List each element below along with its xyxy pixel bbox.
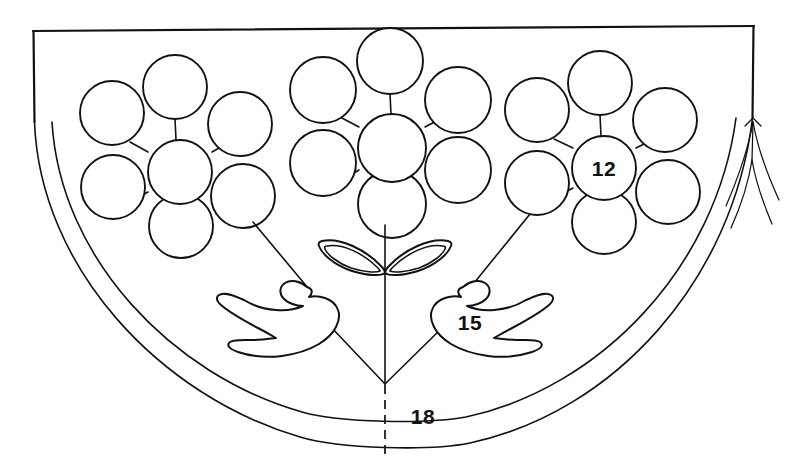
rosette-circle xyxy=(81,155,145,219)
leader-line-right-wing xyxy=(385,327,443,384)
rosette-circle xyxy=(208,92,272,156)
rosette-circle xyxy=(505,78,569,142)
middle-rosette xyxy=(290,28,491,238)
right-rosette: 12 xyxy=(505,51,700,254)
rosette-circle xyxy=(568,51,632,115)
left-rosette xyxy=(80,55,275,258)
right-wing-shape xyxy=(431,281,553,357)
figure-drawing: .ln { fill:none; stroke:#111111; stroke-… xyxy=(0,0,804,468)
rosette-circle xyxy=(290,130,356,196)
rosette-circle xyxy=(425,137,491,203)
rosette-circle xyxy=(636,160,700,224)
rosette-circle xyxy=(211,164,275,228)
rosette-circle xyxy=(143,55,207,119)
left-wing-shape xyxy=(217,281,339,357)
rosette-circle xyxy=(505,151,569,215)
rosette-center-circle xyxy=(358,114,426,182)
patent-figure-canvas: .ln { fill:none; stroke:#111111; stroke-… xyxy=(0,0,804,468)
rosette-circle xyxy=(425,67,491,133)
ref-label-18: 18 xyxy=(411,405,435,428)
right-edge-line xyxy=(753,26,754,118)
left-edge-line xyxy=(34,31,35,122)
rosette-circle xyxy=(633,88,697,152)
leader-line-left-wing xyxy=(330,326,385,384)
leader-line-right-rosette xyxy=(470,214,530,288)
rosette-circle xyxy=(80,81,144,145)
leader-line-left-rosette xyxy=(253,222,308,288)
ref-label-15: 15 xyxy=(458,311,482,334)
rosette-circle xyxy=(357,28,423,94)
rosette-circle xyxy=(290,57,356,123)
rosette-center-circle xyxy=(148,140,212,204)
ref-label-12: 12 xyxy=(592,157,616,180)
